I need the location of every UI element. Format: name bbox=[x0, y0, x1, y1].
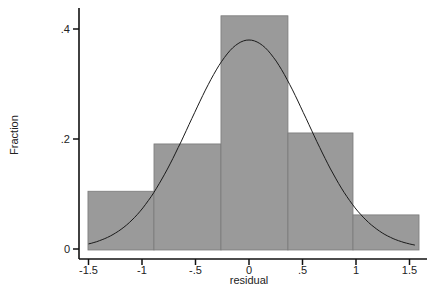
histogram-chart: 0.2.4 -1.5-1-.50.511.5 residual Fraction bbox=[0, 0, 432, 292]
y-tick-label: .2 bbox=[61, 133, 70, 145]
x-tick-label: -.5 bbox=[189, 264, 202, 276]
x-tick-label: -1 bbox=[137, 264, 147, 276]
histogram-bar-5 bbox=[353, 215, 419, 250]
x-tick-label: 1.5 bbox=[402, 264, 417, 276]
histogram-bar-2 bbox=[154, 144, 221, 250]
y-axis-title: Fraction bbox=[8, 115, 20, 155]
x-axis-title: residual bbox=[230, 274, 269, 286]
y-tick-label: 0 bbox=[64, 243, 70, 255]
histogram-bar-3 bbox=[221, 16, 288, 250]
x-tick-label: .5 bbox=[298, 264, 307, 276]
y-tick-label: .4 bbox=[61, 23, 70, 35]
y-axis-ticks: 0.2.4 bbox=[61, 23, 79, 255]
x-tick-label: 1 bbox=[353, 264, 359, 276]
x-tick-label: -1.5 bbox=[79, 264, 98, 276]
